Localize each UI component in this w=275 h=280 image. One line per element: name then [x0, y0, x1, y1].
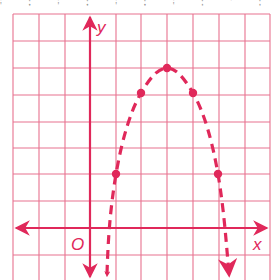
y-axis-label: y	[96, 18, 107, 37]
point-3-6-vertex	[163, 64, 171, 72]
origin-label: O	[71, 235, 84, 254]
grid	[13, 14, 270, 280]
parabola-graph: y x O	[0, 0, 275, 280]
x-axis-label: x	[252, 235, 262, 254]
point-1-2	[112, 170, 120, 178]
point-2-5	[137, 89, 145, 97]
point-4-5	[189, 89, 197, 97]
point-5-2	[214, 170, 222, 178]
parabola-curve	[107, 68, 229, 274]
